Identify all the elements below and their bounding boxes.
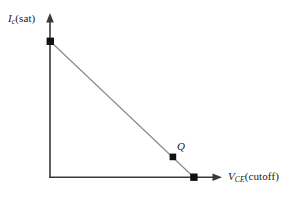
x-axis-label-subscript: CE	[235, 175, 245, 184]
y-axis-label-qualifier: (sat)	[15, 12, 35, 24]
saturation-point-marker	[47, 38, 54, 45]
cutoff-point-marker	[190, 174, 197, 181]
x-axis-label-qualifier: (cutoff)	[245, 170, 279, 182]
dc-load-line-figure: Ic(sat) VCE(cutoff) Q	[0, 0, 297, 200]
q-point-marker	[170, 154, 177, 161]
y-axis-label: Ic(sat)	[8, 13, 35, 26]
q-point-label: Q	[177, 141, 185, 152]
x-axis-label: VCE(cutoff)	[228, 171, 279, 184]
y-axis-arrowhead	[46, 13, 54, 23]
x-axis-arrowhead	[213, 173, 223, 181]
x-axis-label-symbol: V	[228, 170, 235, 182]
